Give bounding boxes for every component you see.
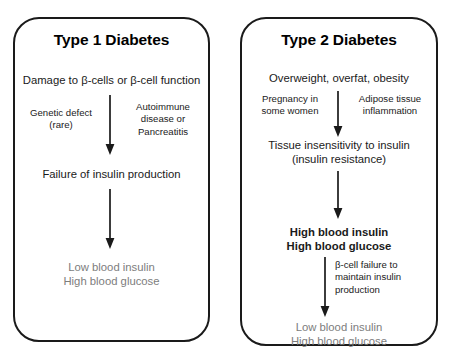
label-t1-autoimmune: Autoimmune disease or Pancreatitis xyxy=(119,101,207,138)
node-t2-high: High blood insulin High blood glucose xyxy=(242,225,436,253)
panel-type-1-diabetes: Type 1 Diabetes Damage to β-cells or β-c… xyxy=(13,17,210,342)
node-t2-outcome: Low blood insulin High blood glucose xyxy=(242,320,436,348)
node-t1-cause-line-1: Damage to β-cells or β-cell function xyxy=(13,73,210,87)
node-t1-failure: Failure of insulin production xyxy=(15,167,208,181)
node-t1-cause: Damage to β-cells or β-cell function xyxy=(13,73,210,87)
label-t1-genetic-defect-line-2: (rare) xyxy=(21,119,101,131)
label-t1-autoimmune-line-2: disease or xyxy=(119,113,207,125)
node-t1-outcome-line-2: High blood glucose xyxy=(15,274,208,288)
label-t1-autoimmune-line-3: Pancreatitis xyxy=(119,126,207,138)
node-t2-outcome-line-1: Low blood insulin xyxy=(242,320,436,334)
label-t2-bcell-failure: β-cell failure to maintain insulin produ… xyxy=(335,259,435,296)
arrow-t2-high-to-outcome xyxy=(318,257,332,319)
panel-title-type-1: Type 1 Diabetes xyxy=(15,31,208,49)
label-t2-adipose-line-2: inflammation xyxy=(347,105,433,117)
node-t1-outcome-line-1: Low blood insulin xyxy=(15,260,208,274)
arrow-t2-tissue-to-high xyxy=(331,171,345,221)
node-t1-outcome: Low blood insulin High blood glucose xyxy=(15,260,208,288)
label-t1-autoimmune-line-1: Autoimmune xyxy=(119,101,207,113)
node-t2-tissue-line-2: (insulin resistance) xyxy=(241,152,437,166)
node-t2-tissue-line-1: Tissue insensitivity to insulin xyxy=(241,138,437,152)
node-t1-failure-line-1: Failure of insulin production xyxy=(15,167,208,181)
panel-title-type-2: Type 2 Diabetes xyxy=(242,31,436,49)
node-t2-tissue: Tissue insensitivity to insulin (insulin… xyxy=(241,138,437,166)
label-t2-adipose: Adipose tissue inflammation xyxy=(347,93,433,118)
node-t2-high-line-2: High blood glucose xyxy=(242,239,436,253)
node-t2-cause: Overweight, overfat, obesity xyxy=(242,71,436,85)
label-t1-genetic-defect-line-1: Genetic defect xyxy=(21,107,101,119)
node-t2-outcome-line-2: High blood glucose xyxy=(242,334,436,348)
label-t2-bcell-failure-line-3: production xyxy=(335,284,435,296)
panel-type-2-diabetes: Type 2 Diabetes Overweight, overfat, obe… xyxy=(240,17,438,346)
label-t2-adipose-line-1: Adipose tissue xyxy=(347,93,433,105)
node-t2-high-line-1: High blood insulin xyxy=(242,225,436,239)
node-t2-cause-line-1: Overweight, overfat, obesity xyxy=(242,71,436,85)
label-t2-bcell-failure-line-2: maintain insulin xyxy=(335,271,435,283)
arrow-t2-cause-to-tissue xyxy=(331,91,345,139)
arrow-t1-failure-to-outcome xyxy=(103,189,117,251)
label-t2-pregnancy-line-1: Pregnancy in xyxy=(252,93,328,105)
label-t2-pregnancy-line-2: some women xyxy=(252,105,328,117)
label-t2-pregnancy: Pregnancy in some women xyxy=(252,93,328,118)
arrow-t1-cause-to-failure xyxy=(103,95,117,157)
label-t1-genetic-defect: Genetic defect (rare) xyxy=(21,107,101,132)
diabetes-comparison-diagram: Type 1 Diabetes Damage to β-cells or β-c… xyxy=(0,0,453,360)
label-t2-bcell-failure-line-1: β-cell failure to xyxy=(335,259,435,271)
